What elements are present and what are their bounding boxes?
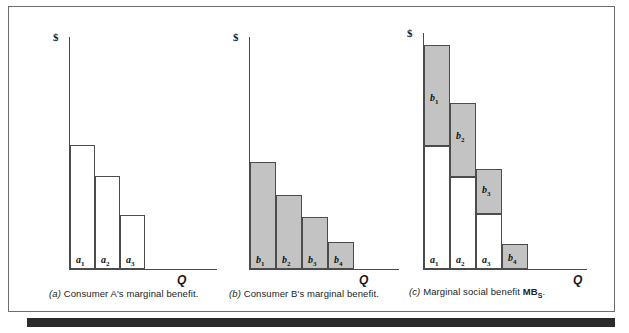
panel-a-caption-text: Consumer A's marginal benefit. bbox=[64, 288, 199, 299]
bar-label-c-b1: b1 bbox=[430, 93, 439, 106]
figure-frame: $ Q a1 a2 a3 (a) Consumer A's marginal b… bbox=[8, 6, 615, 312]
panel-c-y-axis-label: $ bbox=[407, 27, 413, 39]
panel-a-y-axis-label: $ bbox=[53, 31, 59, 43]
panel-a: $ Q a1 a2 a3 (a) Consumer A's marginal b… bbox=[31, 7, 221, 313]
panel-b: $ Q b1 b2 b3 b4 (b) Consumer B's margina… bbox=[221, 7, 411, 313]
panel-b-caption-text: Consumer B's marginal benefit. bbox=[244, 288, 379, 299]
panel-b-plot: $ Q b1 b2 b3 b4 bbox=[221, 7, 411, 277]
panel-c-caption-period: . bbox=[542, 286, 545, 297]
bar-label-c-a1: a1 bbox=[430, 255, 439, 268]
panel-c-caption-tag: (c) bbox=[409, 286, 420, 297]
panel-a-x-axis-label: Q bbox=[177, 273, 186, 287]
panel-c: $ Q a1 a2 a3 b4 b1 b2 b3 (c) Marginal so… bbox=[409, 7, 614, 313]
bar-label-b1: b1 bbox=[256, 255, 265, 268]
bar-label-b4: b4 bbox=[334, 255, 343, 268]
bar-label-c-b2: b2 bbox=[456, 131, 465, 144]
panel-c-plot: $ Q a1 a2 a3 b4 b1 b2 b3 bbox=[409, 7, 614, 277]
bar-label-a3: a3 bbox=[126, 255, 135, 268]
panel-b-caption-tag: (b) bbox=[229, 288, 241, 299]
bottom-rule-bar bbox=[27, 318, 615, 327]
panel-a-caption-tag: (a) bbox=[49, 288, 61, 299]
bar-label-a2: a2 bbox=[101, 255, 110, 268]
bar-label-a1: a1 bbox=[76, 255, 85, 268]
bar-label-c-a2: a2 bbox=[456, 255, 465, 268]
bar-b1 bbox=[250, 162, 276, 269]
panel-c-x-axis-label: Q bbox=[573, 273, 582, 287]
bar-label-c-a3: a3 bbox=[482, 255, 491, 268]
bar-label-b2: b2 bbox=[282, 255, 291, 268]
panel-a-caption: (a) Consumer A's marginal benefit. bbox=[49, 288, 198, 299]
panel-c-caption-text: Marginal social benefit bbox=[423, 286, 523, 297]
panel-a-x-axis bbox=[69, 269, 217, 270]
panel-b-x-axis-label: Q bbox=[359, 273, 368, 287]
bar-c-a1 bbox=[424, 146, 450, 269]
bar-label-c-b3: b3 bbox=[482, 185, 491, 198]
bar-label-b3: b3 bbox=[308, 255, 317, 268]
bar-a1 bbox=[70, 145, 95, 269]
panel-b-caption: (b) Consumer B's marginal benefit. bbox=[229, 288, 379, 299]
panel-c-caption: (c) Marginal social benefit MBS. bbox=[409, 286, 545, 299]
panel-c-x-axis bbox=[423, 269, 587, 270]
panel-a-plot: $ Q a1 a2 a3 bbox=[31, 7, 221, 277]
panel-c-caption-mb-text: MB bbox=[523, 286, 538, 297]
panel-c-caption-mb: MBS bbox=[523, 286, 543, 297]
panel-b-y-axis-label: $ bbox=[233, 31, 239, 43]
bar-label-c-b4: b4 bbox=[508, 253, 517, 266]
panel-b-x-axis bbox=[249, 269, 399, 270]
